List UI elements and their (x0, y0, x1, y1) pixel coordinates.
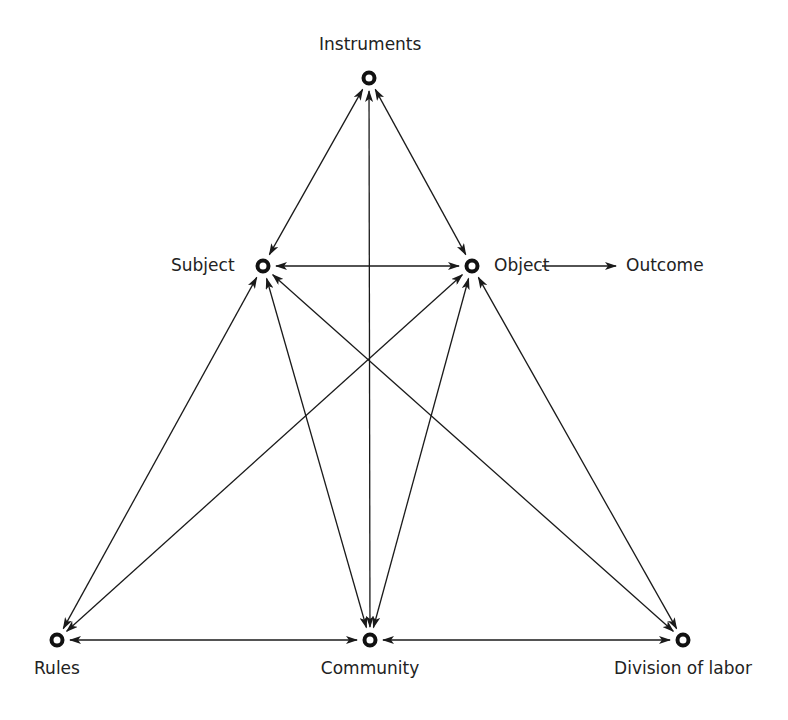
edge-object-rules (67, 275, 463, 632)
label-division: Division of labor (614, 658, 752, 678)
node-division-icon (678, 635, 689, 646)
node-community-icon (365, 635, 376, 646)
edge-object-division (478, 277, 676, 628)
label-object: Object (494, 255, 549, 275)
edge-instruments-object (375, 89, 466, 254)
label-rules: Rules (34, 658, 80, 678)
label-subject: Subject (171, 255, 235, 275)
label-instruments: Instruments (319, 34, 421, 54)
edge-subject-division (273, 275, 674, 632)
label-community: Community (321, 658, 419, 678)
activity-system-diagram (0, 0, 788, 720)
edge-object-community (373, 279, 468, 628)
node-instruments-icon (364, 73, 375, 84)
node-rules-icon (52, 635, 63, 646)
edge-subject-rules (63, 277, 256, 628)
node-subject-icon (258, 261, 269, 272)
edges (63, 89, 676, 640)
node-object-icon (467, 261, 478, 272)
edge-instruments-subject (269, 89, 362, 254)
label-outcome: Outcome (626, 255, 704, 275)
edge-subject-community (267, 278, 367, 627)
